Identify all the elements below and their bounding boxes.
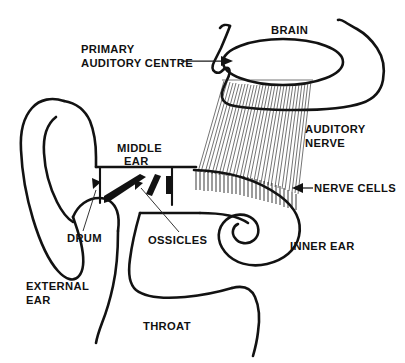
drum-leader: [83, 190, 96, 231]
label-external-ear-line1: EXTERNAL: [26, 280, 89, 292]
label-auditory-nerve-line1: AUDITORY: [305, 123, 366, 135]
label-throat: THROAT: [143, 320, 191, 332]
ossicle-stapes: [166, 176, 173, 194]
label-auditory-nerve-line2: NERVE: [305, 137, 345, 149]
eustachian-tube-left-wall: [96, 231, 118, 343]
label-inner-ear: INNER EAR: [290, 240, 355, 252]
primary-auditory-centre-arrowhead: [221, 56, 233, 66]
ossicle-incus: [146, 174, 161, 196]
external-ear-inner-fold: [44, 117, 73, 222]
ear-canal-lower-curve: [73, 198, 119, 231]
ear-anatomy-diagram: BRAIN PRIMARY AUDITORY CENTRE AUDITORY N…: [0, 0, 405, 363]
throat-right-wall: [232, 287, 259, 356]
label-drum: DRUM: [67, 232, 102, 244]
nerve-cells-arrowhead: [292, 183, 303, 193]
label-primary-auditory-centre-line1: PRIMARY: [81, 43, 135, 55]
label-middle-ear-line2: EAR: [124, 155, 149, 167]
nerve-cells-fringe: [196, 171, 296, 210]
label-primary-auditory-centre-line2: AUDITORY CENTRE: [81, 57, 193, 69]
middle-ear-group: [92, 167, 200, 213]
external-ear-group: [21, 99, 119, 279]
label-nerve-cells: NERVE CELLS: [314, 182, 396, 194]
primary-auditory-centre-ellipse: [223, 39, 343, 85]
ossicle-malleus: [104, 174, 146, 203]
label-middle-ear-line1: MIDDLE: [117, 142, 162, 154]
external-ear-top-rim: [64, 101, 96, 167]
cochlea-outer-wall: [194, 170, 300, 265]
ossicles-leader: [141, 188, 179, 232]
label-ossicles: OSSICLES: [148, 234, 208, 246]
throat-upper-wall: [129, 213, 232, 298]
label-external-ear-line2: EAR: [26, 294, 51, 306]
auditory-nerve-fan: [198, 80, 313, 194]
ear-diagram-canvas: BRAIN PRIMARY AUDITORY CENTRE AUDITORY N…: [0, 0, 405, 363]
inner-ear-group: [194, 170, 300, 265]
label-brain: BRAIN: [271, 24, 308, 36]
